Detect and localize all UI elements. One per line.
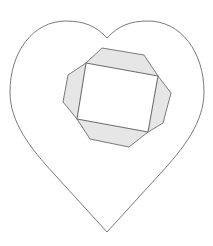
inner-rectangle [77, 63, 158, 132]
heart-diagram [0, 0, 213, 246]
